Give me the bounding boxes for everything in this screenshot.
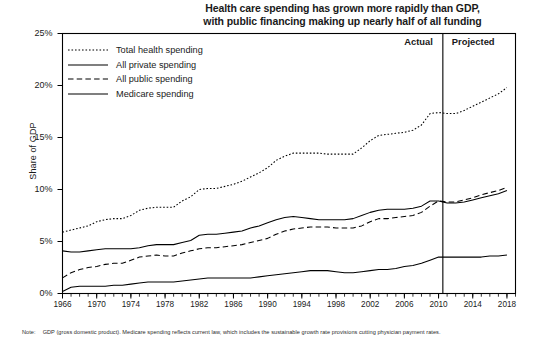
legend-item[interactable]: Total health spending [68, 43, 203, 58]
chart-footnote: Note:GDP (gross domestic product). Medic… [22, 328, 527, 336]
y-axis-tick-label: 15% [19, 133, 53, 142]
y-axis-tick-label: 20% [19, 81, 53, 90]
x-axis-tick-label: 1990 [250, 300, 286, 309]
legend-label: Medicare spending [116, 87, 194, 102]
x-axis-tick-label: 1978 [147, 300, 183, 309]
x-axis-tick-label: 2002 [352, 300, 388, 309]
x-axis-tick-label: 1970 [79, 300, 115, 309]
x-axis-tick-label: 1986 [215, 300, 251, 309]
legend-label: Total health spending [116, 43, 203, 58]
x-axis-tick-label: 2006 [386, 300, 422, 309]
legend-item[interactable]: Medicare spending [68, 87, 203, 102]
x-axis-tick-label: 1994 [284, 300, 320, 309]
y-axis-tick-label: 0% [19, 289, 53, 298]
x-axis-tick-label: 2018 [489, 300, 525, 309]
x-axis-tick-label: 1998 [318, 300, 354, 309]
legend-label: All public spending [116, 72, 193, 87]
x-axis-tick-label: 2010 [421, 300, 457, 309]
chart-figure: Health care spending has grown more rapi… [0, 0, 539, 350]
legend-item[interactable]: All public spending [68, 72, 203, 87]
series-line-all-private-spending [63, 191, 507, 252]
series-line-total-health-spending [63, 88, 507, 233]
series-line-all-public-spending [63, 187, 507, 277]
projected-period-label: Projected [452, 36, 495, 47]
chart-legend: Total health spendingAll private spendin… [68, 43, 203, 101]
footnote-text: GDP (gross domestic product). Medicare s… [43, 329, 441, 335]
legend-swatch-dashed-line-icon [68, 74, 108, 84]
actual-period-label: Actual [371, 36, 433, 47]
legend-label: All private spending [116, 58, 196, 73]
legend-item[interactable]: All private spending [68, 58, 203, 73]
legend-swatch-solid-line-icon [68, 89, 108, 99]
legend-swatch-solid-line-icon [68, 60, 108, 70]
legend-swatch-dotted-line-icon [68, 45, 108, 55]
x-axis-tick-label: 1966 [45, 300, 81, 309]
footnote-label: Note: [22, 329, 36, 335]
x-axis-tick-label: 1982 [181, 300, 217, 309]
x-axis-tick-label: 2014 [455, 300, 491, 309]
y-axis-tick-label: 5% [19, 237, 53, 246]
x-axis-tick-label: 1974 [113, 300, 149, 309]
y-axis-tick-label: 25% [19, 29, 53, 38]
y-axis-tick-label: 10% [19, 185, 53, 194]
